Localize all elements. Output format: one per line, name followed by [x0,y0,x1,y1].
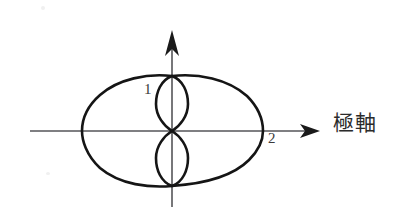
polar-plot-canvas [0,0,404,211]
tick-label-two: 2 [268,131,276,146]
polar-curve-figure: 1 2 極軸 [0,0,404,211]
tick-label-one: 1 [144,82,152,97]
polar-axis-label: 極軸 [333,113,377,134]
